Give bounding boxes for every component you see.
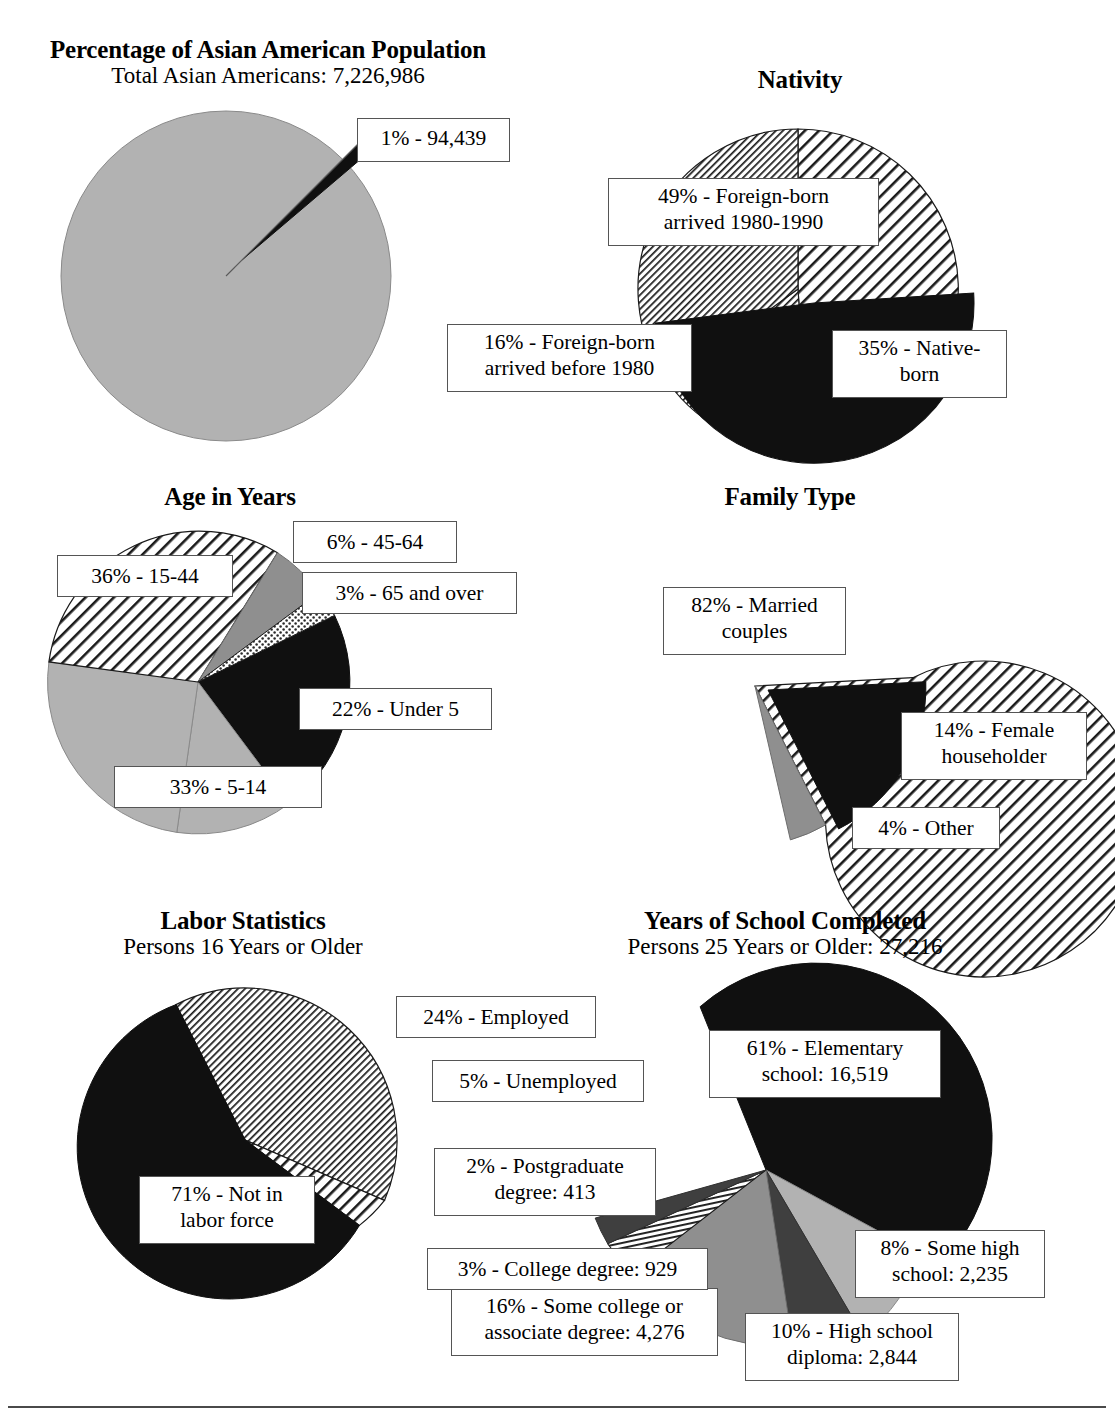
callout-not-in-labor-force: 71% - Not in labor force	[139, 1176, 315, 1244]
chart-title-age: Age in Years	[60, 483, 400, 510]
chart-panel-population: Percentage of Asian American Population …	[8, 36, 528, 88]
callout-1-percent: 1% - 94,439	[357, 118, 510, 162]
chart-panel-nativity: Nativity	[600, 66, 1000, 93]
infographic-page: Percentage of Asian American Population …	[0, 0, 1115, 1422]
callout-some-college: 16% - Some college or associate degree: …	[451, 1288, 718, 1356]
callout-foreign-born-before-1980: 16% - Foreign-born arrived before 1980	[447, 324, 692, 392]
callout-postgraduate-degree: 2% - Postgraduate degree: 413	[434, 1148, 656, 1216]
callout-college-degree: 3% - College degree: 929	[427, 1248, 708, 1290]
chart-panel-family: Family Type	[620, 483, 960, 510]
callout-some-high-school: 8% - Some high school: 2,235	[855, 1230, 1045, 1298]
chart-panel-labor: Labor Statistics Persons 16 Years or Old…	[58, 907, 428, 959]
footer-divider	[8, 1406, 1106, 1408]
callout-married-couples: 82% - Married couples	[663, 587, 846, 655]
pie-chart-labor	[95, 982, 445, 1312]
chart-panel-age: Age in Years	[60, 483, 400, 510]
chart-subtitle-labor: Persons 16 Years or Older	[58, 934, 428, 959]
callout-age-45-64: 6% - 45-64	[293, 521, 457, 563]
chart-subtitle-school: Persons 25 Years or Older: 27,216	[575, 934, 995, 959]
chart-title-nativity: Nativity	[600, 66, 1000, 93]
callout-employed: 24% - Employed	[396, 996, 596, 1038]
callout-age-under-5: 22% - Under 5	[299, 688, 492, 730]
chart-title-family: Family Type	[620, 483, 960, 510]
pie-chart-nativity	[560, 105, 1040, 455]
chart-title-school: Years of School Completed	[575, 907, 995, 934]
callout-age-5-14: 33% - 5-14	[114, 766, 322, 808]
pie-chart-family	[585, 524, 985, 854]
chart-title-population: Percentage of Asian American Population	[8, 36, 528, 63]
callout-native-born: 35% - Native- born	[832, 330, 1007, 398]
callout-foreign-born-1980-1990: 49% - Foreign-born arrived 1980-1990	[608, 178, 879, 246]
callout-elementary-school: 61% - Elementary school: 16,519	[709, 1030, 941, 1098]
callout-high-school-diploma: 10% - High school diploma: 2,844	[745, 1313, 959, 1381]
chart-subtitle-population: Total Asian Americans: 7,226,986	[8, 63, 528, 88]
pie-chart-population	[58, 104, 408, 444]
callout-female-householder: 14% - Female householder	[901, 712, 1087, 780]
callout-age-65-and-over: 3% - 65 and over	[302, 572, 517, 614]
callout-family-other: 4% - Other	[852, 807, 1000, 849]
callout-age-15-44: 36% - 15-44	[57, 555, 233, 597]
chart-title-labor: Labor Statistics	[58, 907, 428, 934]
chart-panel-school: Years of School Completed Persons 25 Yea…	[575, 907, 995, 959]
